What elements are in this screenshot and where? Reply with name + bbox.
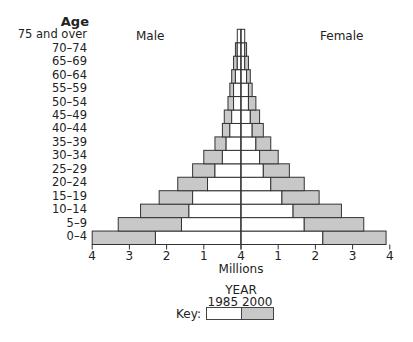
x-tick-label: 1 bbox=[194, 249, 214, 263]
bar-male-2000 bbox=[234, 56, 238, 69]
x-tick-label: 4 bbox=[380, 249, 400, 263]
bar-female-2000 bbox=[245, 56, 249, 69]
bar-male-1985 bbox=[234, 97, 241, 110]
bar-female-2000 bbox=[256, 137, 271, 150]
bar-female-1985 bbox=[241, 29, 245, 42]
bar-male-1985 bbox=[222, 150, 241, 163]
bar-male-1985 bbox=[235, 70, 241, 83]
bar-male-1985 bbox=[230, 123, 241, 136]
bar-male-1985 bbox=[193, 191, 241, 204]
bar-male-2000 bbox=[224, 110, 231, 123]
bar-male-2000 bbox=[215, 137, 226, 150]
bar-male-2000 bbox=[230, 83, 234, 96]
bar-female-2000 bbox=[282, 191, 319, 204]
bar-male-2000 bbox=[141, 204, 189, 217]
bar-female-1985 bbox=[241, 43, 245, 56]
bar-male-2000 bbox=[118, 218, 181, 231]
bar-male-2000 bbox=[178, 177, 208, 190]
x-tick-label: 4 bbox=[82, 249, 102, 263]
bar-male-1985 bbox=[189, 204, 241, 217]
x-tick-label: 3 bbox=[119, 249, 139, 263]
x-tick-label: 2 bbox=[305, 249, 325, 263]
bar-female-1985 bbox=[241, 83, 248, 96]
bar-male-1985 bbox=[181, 218, 241, 231]
legend-key-label: Key: bbox=[176, 307, 201, 321]
bar-female-2000 bbox=[323, 231, 386, 244]
bar-female-2000 bbox=[248, 97, 255, 110]
bar-female-2000 bbox=[260, 150, 279, 163]
bar-female-2000 bbox=[245, 43, 247, 56]
bar-male-1985 bbox=[208, 177, 241, 190]
bar-female-2000 bbox=[304, 218, 364, 231]
bar-female-1985 bbox=[241, 137, 256, 150]
bar-male-2000 bbox=[92, 231, 155, 244]
x-tick-label: 2 bbox=[157, 249, 177, 263]
bar-male-1985 bbox=[155, 231, 241, 244]
bar-female-1985 bbox=[241, 110, 250, 123]
bar-female-1985 bbox=[241, 164, 263, 177]
bar-male-2000 bbox=[159, 191, 192, 204]
bar-female-1985 bbox=[241, 56, 245, 69]
bar-female-2000 bbox=[293, 204, 341, 217]
bar-female-1985 bbox=[241, 123, 252, 136]
bar-male-1985 bbox=[234, 83, 241, 96]
bar-female-1985 bbox=[241, 191, 282, 204]
x-tick-label: 4 bbox=[231, 249, 251, 263]
legend-swatch-2000 bbox=[241, 307, 274, 320]
legend-swatch-1985 bbox=[206, 307, 242, 320]
bar-male-1985 bbox=[237, 43, 241, 56]
bar-female-2000 bbox=[248, 83, 252, 96]
bar-female-1985 bbox=[241, 231, 323, 244]
bar-male-1985 bbox=[237, 56, 241, 69]
bar-female-2000 bbox=[271, 177, 304, 190]
bar-female-1985 bbox=[241, 150, 260, 163]
bar-female-2000 bbox=[252, 123, 263, 136]
bar-male-2000 bbox=[222, 123, 229, 136]
bar-female-1985 bbox=[241, 218, 304, 231]
x-tick-label: 1 bbox=[268, 249, 288, 263]
bar-male-2000 bbox=[193, 164, 215, 177]
bar-male-2000 bbox=[232, 70, 236, 83]
bar-female-1985 bbox=[241, 204, 293, 217]
bar-male-2000 bbox=[204, 150, 223, 163]
bar-male-1985 bbox=[232, 110, 241, 123]
bar-male-2000 bbox=[228, 97, 234, 110]
bar-male-1985 bbox=[237, 29, 241, 42]
bar-female-2000 bbox=[247, 70, 251, 83]
bar-female-1985 bbox=[241, 97, 248, 110]
x-axis-title: Millions bbox=[201, 262, 281, 276]
bar-female-2000 bbox=[250, 110, 259, 123]
bar-female-1985 bbox=[241, 177, 271, 190]
bar-female-1985 bbox=[241, 70, 247, 83]
bar-male-1985 bbox=[215, 164, 241, 177]
bar-male-1985 bbox=[226, 137, 241, 150]
x-tick-label: 3 bbox=[343, 249, 363, 263]
bar-female-2000 bbox=[263, 164, 289, 177]
